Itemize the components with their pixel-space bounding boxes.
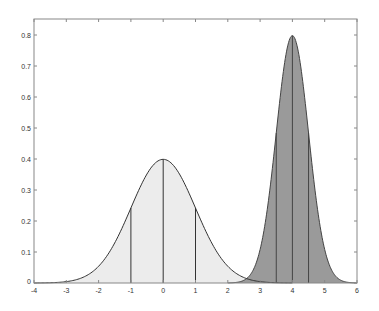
x-tick-label: 4	[290, 287, 294, 294]
x-tick-label: -3	[63, 287, 69, 294]
x-tick-label: 5	[323, 287, 327, 294]
y-tick-label: 0.8	[21, 32, 31, 39]
x-tick-label: 6	[355, 287, 359, 294]
x-tick-label: 1	[194, 287, 198, 294]
x-tick-label: 2	[226, 287, 230, 294]
y-tick-label: 0.1	[21, 249, 31, 256]
normal-distributions-chart: -4-3-2-10123456 00.10.20.30.40.50.60.70.…	[0, 0, 379, 311]
y-tick-label: 0	[27, 278, 31, 285]
x-tick-label: 3	[258, 287, 262, 294]
x-tick-label: -4	[31, 287, 37, 294]
x-tick-label: -1	[128, 287, 134, 294]
y-tick-label: 0.6	[21, 94, 31, 101]
y-tick-label: 0.3	[21, 187, 31, 194]
y-tick-label: 0.2	[21, 218, 31, 225]
x-tick-label: -2	[95, 287, 101, 294]
x-tick-label: 0	[161, 287, 165, 294]
y-tick-label: 0.5	[21, 125, 31, 132]
y-tick-label: 0.7	[21, 63, 31, 70]
y-tick-label: 0.4	[21, 156, 31, 163]
